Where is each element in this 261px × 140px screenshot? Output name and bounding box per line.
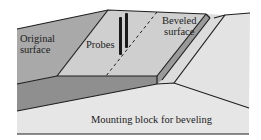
beveling-diagram: Original surface Probes Beveled surface … bbox=[0, 0, 261, 140]
label-beveled-line2: surface bbox=[162, 26, 196, 37]
label-beveled-surface: Beveled surface bbox=[162, 15, 196, 37]
label-original-line1: Original bbox=[20, 33, 55, 44]
label-original-surface: Original surface bbox=[20, 33, 55, 55]
label-mounting-block: Mounting block for beveling bbox=[91, 114, 212, 125]
label-beveled-line1: Beveled bbox=[162, 15, 196, 26]
label-original-line2: surface bbox=[20, 44, 55, 55]
label-probes: Probes bbox=[86, 39, 115, 50]
